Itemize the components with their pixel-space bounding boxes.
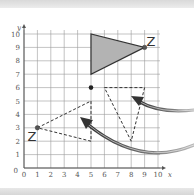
x-tick-label: 7 [116, 171, 120, 179]
x-tick-label: 9 [142, 171, 146, 179]
origin-label: 0 [14, 167, 18, 175]
y-axis-label: y [16, 24, 22, 32]
y-tick-label: 4 [16, 111, 21, 119]
y-tick-label: 5 [16, 98, 20, 106]
x-tick-label: 8 [129, 171, 133, 179]
y-tick-label: 6 [16, 84, 21, 92]
x-tick-label: 6 [102, 171, 107, 179]
x-tick-label: 10 [154, 171, 163, 179]
coordinate-grid-diagram: 012345678910123456789100xy ZZ [0, 0, 194, 195]
y-tick-label: 2 [16, 138, 20, 146]
y-tick-label: 9 [16, 44, 20, 52]
y-axis-arrow-icon [22, 24, 26, 28]
y-tick-label: 7 [16, 71, 20, 79]
x-axis-arrow-icon [162, 166, 166, 170]
y-tick-label: 3 [16, 124, 20, 132]
x-tick-label: 4 [75, 171, 80, 179]
label-z-image: Z [27, 129, 36, 144]
x-tick-label: 2 [49, 171, 53, 179]
x-axis-label: x [168, 171, 172, 179]
pointer-arrow-right-triangle [138, 101, 194, 111]
centre-point [89, 85, 94, 90]
x-tick-label: 5 [89, 171, 93, 179]
y-tick-label: 1 [16, 151, 20, 159]
pointer-arrow-left-triangle [86, 123, 194, 153]
label-z-original: Z [147, 34, 156, 49]
x-tick-label: 0 [22, 171, 26, 179]
x-tick-label: 1 [35, 171, 39, 179]
y-tick-label: 8 [16, 57, 20, 65]
arrows [80, 96, 194, 153]
x-tick-label: 3 [62, 171, 66, 179]
